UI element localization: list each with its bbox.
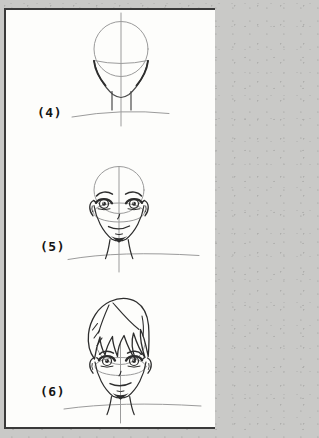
step-5-drawing — [0, 146, 215, 292]
step-6-label: (6) — [40, 385, 65, 399]
tutorial-page: { "page": { "background_color": "#c9c9c7… — [0, 0, 215, 438]
step-4-label: (4) — [37, 106, 62, 120]
neck-left — [106, 240, 111, 259]
construction-lines — [68, 167, 199, 273]
step-4-drawing — [0, 0, 215, 146]
neck-left — [107, 397, 112, 415]
pupil-right — [132, 202, 136, 206]
construction-lines — [72, 13, 169, 126]
step-4-section: (4) — [0, 0, 215, 146]
pupil-left — [105, 359, 109, 363]
lower-lid-left — [101, 366, 113, 367]
step-6-section: (6) — [0, 292, 215, 438]
shoulder-guide-line — [68, 254, 199, 260]
neck-right — [130, 397, 135, 415]
step-6-drawing — [0, 292, 215, 438]
pupil-right — [132, 359, 136, 363]
eyebrow-left — [100, 351, 114, 354]
step-5-label: (5) — [40, 240, 65, 254]
step-5-section: (5) — [0, 146, 215, 292]
eyebrow-left — [97, 192, 113, 196]
pupil-left — [102, 202, 106, 206]
eyebrow-right — [126, 192, 142, 196]
eyebrow-right — [128, 351, 142, 354]
lower-lid-right — [128, 366, 140, 367]
neck-right — [128, 240, 133, 259]
